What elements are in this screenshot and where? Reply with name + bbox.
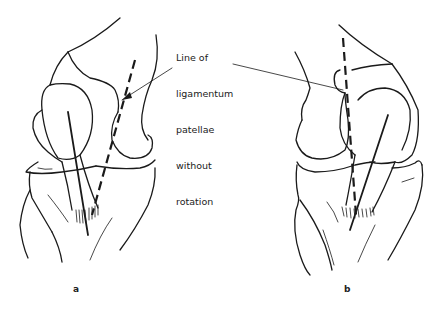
tibia-right-b [388,165,423,260]
patella-a [42,84,93,160]
annotation-line-5: rotation [176,196,233,208]
leader-line-b [233,64,343,90]
patella-top-b [352,64,392,70]
annotation-line-1: Line of [176,52,233,64]
annotation-line-2: ligamentum [176,88,233,100]
tibia-inner-line-a [48,195,68,222]
femur-notch [68,52,119,112]
tibia-left-a [29,172,52,232]
plateau-mark-b [402,178,414,182]
tibia-mark-b [327,202,338,222]
ligament-left-edge-a [62,162,72,210]
femur-right-b [392,64,418,163]
tibia-inner-line-b [323,230,334,265]
panel-b-drawing [233,25,423,275]
insertion-hatch-b [342,207,374,218]
plateau-mark-a [38,168,52,169]
fibula-outer-a [20,190,30,258]
annotation-line-3: patellae [176,124,233,136]
tibial-plateau-a [26,162,96,174]
condyle-b [358,88,410,150]
panel-label-a: a [73,284,79,294]
fibula-b [300,200,332,270]
tibia-inner-a [52,232,62,262]
annotation-line-4: without [176,160,233,172]
femur-shaft-right [142,35,158,140]
insertion-hatch-a [76,205,98,223]
femur-top-edge [68,18,120,52]
tibia-ridge-b [358,225,375,262]
femur-shaft-left-b [295,52,310,120]
tibial-plateau-right-a [96,160,155,169]
annotation-label: Line of ligamentum patellae without rota… [176,28,233,220]
ligament-right-edge-b [372,162,395,212]
dashed-line-a [92,60,135,215]
femur-left-edge [50,52,68,85]
femur-top-edge-b [339,25,392,64]
tibia-left-b [295,165,310,275]
panel-label-b: b [344,284,350,294]
panel-a-drawing [20,18,172,262]
arrowhead-a [122,92,132,100]
patella-left-edge-b [334,70,355,155]
tibial-plateau-b [297,162,375,172]
tibia-right-a [120,168,155,250]
tibia-ridge-a [90,218,112,260]
